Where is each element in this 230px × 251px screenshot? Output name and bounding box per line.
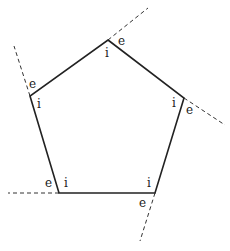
angle-labels: ieieieieie [29,34,193,210]
pentagon-diagram: ieieieieie [0,0,230,251]
extension-line-top [108,8,148,40]
exterior-angle-label-bottom-right: e [139,196,146,210]
interior-angle-label-bottom-right: i [147,176,151,190]
extension-lines [8,8,225,241]
exterior-angle-label-bottom-left: e [45,176,52,190]
interior-angle-label-top: i [105,46,109,60]
exterior-angle-label-right: e [186,103,193,117]
pentagon [30,40,184,193]
exterior-angle-label-left: e [29,77,36,91]
exterior-angle-label-top: e [118,34,125,48]
interior-angle-label-bottom-left: i [64,176,68,190]
interior-angle-label-right: i [172,96,176,110]
extension-line-left [14,46,30,96]
interior-angle-label-left: i [37,97,41,111]
